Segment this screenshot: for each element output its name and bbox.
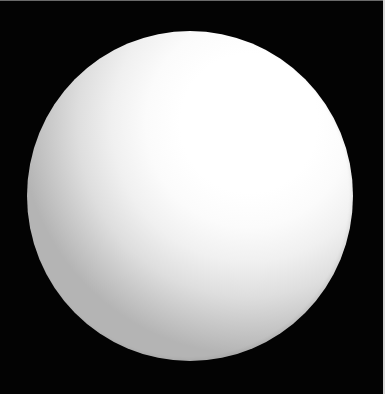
top-frame-edge — [0, 0, 385, 1]
image-canvas — [0, 0, 385, 394]
white-sphere — [27, 31, 353, 361]
